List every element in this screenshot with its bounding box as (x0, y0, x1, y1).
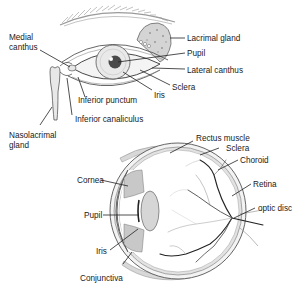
label-medial-canthus-line1: Medial (9, 33, 33, 42)
label-choroid: Choroid (240, 156, 269, 165)
label-rectus-muscle: Rectus muscle (196, 134, 250, 143)
label-optic-disc: optic disc (258, 204, 292, 213)
label-conjunctiva: Conjunctiva (80, 274, 123, 283)
eye-anatomy-diagram: Medial canthus Lacrimal gland Pupil Late… (0, 0, 297, 292)
label-sclera-cross: Sclera (226, 144, 250, 153)
label-sclera-external: Sclera (172, 83, 196, 92)
label-inferior-canaliculus: Inferior canaliculus (75, 115, 143, 124)
label-medial-canthus-line2: canthus (9, 43, 38, 52)
label-nasolacrimal-line1: Nasolacrimal (9, 131, 56, 140)
label-nasolacrimal-line2: gland (9, 141, 29, 150)
nasolacrimal-duct (50, 67, 60, 120)
caruncle (68, 65, 76, 71)
label-pupil-external: Pupil (187, 49, 205, 58)
label-inferior-punctum: Inferior punctum (78, 96, 137, 105)
label-lacrimal-gland: Lacrimal gland (187, 34, 241, 43)
label-cornea: Cornea (77, 176, 104, 185)
label-iris-cross: Iris (96, 247, 107, 256)
label-lateral-canthus: Lateral canthus (187, 66, 243, 75)
lens (141, 191, 159, 231)
label-retina: Retina (253, 180, 277, 189)
label-pupil-cross: Pupil (84, 211, 102, 220)
label-iris-external: Iris (154, 91, 165, 100)
